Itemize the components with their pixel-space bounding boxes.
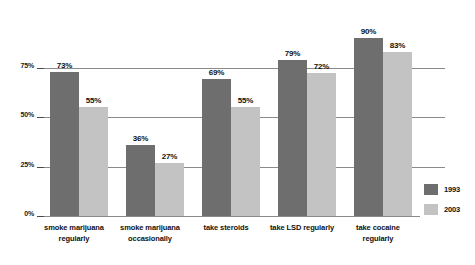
y-tick-mark (37, 167, 44, 168)
bar-value-label: 72% (314, 62, 329, 71)
y-tick-label-25: 25% (21, 161, 34, 168)
x-label-line-2: occasionally (100, 233, 200, 244)
y-tick-50: 50% (0, 117, 44, 118)
y-tick-0: 0% (0, 216, 44, 217)
y-tick-label-0: 0% (24, 210, 34, 217)
legend-swatch-icon-1993 (424, 184, 438, 195)
bar-1993-smoke-marijuana-regularly[interactable]: 73% (50, 72, 79, 217)
y-tick-label-50: 50% (21, 111, 34, 118)
axis-baseline (38, 216, 420, 217)
bar-2003-take-cocaine-regularly[interactable]: 83% (383, 52, 412, 216)
y-tick-label-75: 75% (21, 62, 34, 69)
y-tick-mark (37, 68, 44, 69)
legend-label-2003: 2003 (444, 205, 460, 214)
bar-pair: 90% 83% (354, 18, 412, 216)
plot-area: 73% 55% 36% 27% 69% (44, 18, 410, 216)
x-label-line-1: take cocaine (328, 222, 428, 233)
bar-1993-smoke-marijuana-occasionally[interactable]: 36% (126, 145, 155, 216)
legend-swatch-icon-2003 (424, 204, 438, 215)
bar-value-label: 27% (162, 152, 177, 161)
bar-2003-smoke-marijuana-occasionally[interactable]: 27% (155, 163, 184, 217)
bar-1993-take-lsd-regularly[interactable]: 79% (278, 60, 307, 216)
x-label-take-cocaine-regularly: take cocaine regularly (328, 222, 428, 244)
y-tick-mark (37, 216, 44, 217)
bar-value-label: 55% (86, 96, 101, 105)
x-label-line-2: regularly (328, 233, 428, 244)
legend-item-1993[interactable]: 1993 (424, 182, 460, 197)
bar-value-label: 55% (238, 96, 253, 105)
y-tick-75: 75% (0, 68, 44, 69)
bar-pair: 79% 72% (278, 18, 336, 216)
bar-2003-smoke-marijuana-regularly[interactable]: 55% (79, 107, 108, 216)
bar-value-label: 69% (209, 68, 224, 77)
bar-pair: 69% 55% (202, 18, 260, 216)
bar-2003-take-steroids[interactable]: 55% (231, 107, 260, 216)
bar-chart: 73% 55% 36% 27% 69% (0, 0, 475, 265)
legend-label-1993: 1993 (444, 185, 460, 194)
bar-value-label: 79% (285, 49, 300, 58)
bar-value-label: 83% (390, 41, 405, 50)
y-tick-25: 25% (0, 167, 44, 168)
bar-1993-take-steroids[interactable]: 69% (202, 79, 231, 216)
legend: 1993 2003 (424, 182, 460, 222)
bar-1993-take-cocaine-regularly[interactable]: 90% (354, 38, 383, 216)
bar-pair: 73% 55% (50, 18, 108, 216)
bar-2003-take-lsd-regularly[interactable]: 72% (307, 73, 336, 216)
bar-value-label: 90% (361, 27, 376, 36)
bar-value-label: 36% (133, 134, 148, 143)
y-tick-mark (37, 117, 44, 118)
bar-pair: 36% 27% (126, 18, 184, 216)
legend-item-2003[interactable]: 2003 (424, 202, 460, 217)
bar-value-label: 73% (57, 61, 72, 70)
